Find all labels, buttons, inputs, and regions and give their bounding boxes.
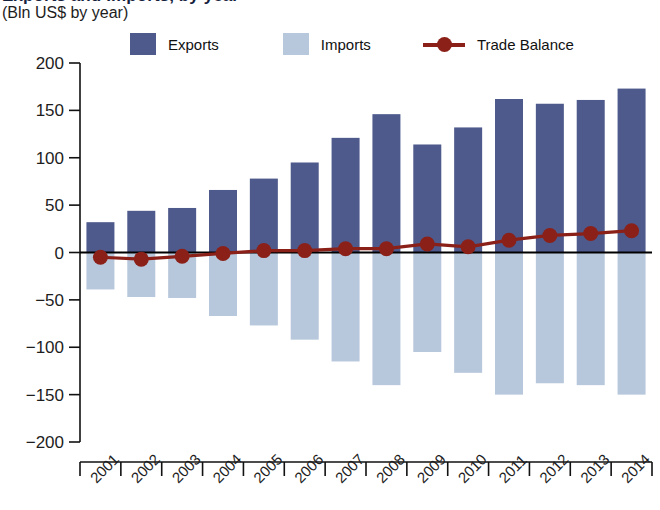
exports-bar	[127, 211, 155, 253]
x-tick-label: 2007	[332, 451, 368, 487]
svg-text:−50: −50	[35, 291, 64, 310]
svg-text:−100: −100	[26, 338, 64, 357]
svg-text:0: 0	[55, 244, 64, 263]
x-tick-label: 2013	[577, 451, 613, 487]
trade-balance-marker	[502, 233, 517, 248]
imports-bar	[618, 253, 646, 395]
exports-bar	[413, 144, 441, 252]
imports-bar	[454, 253, 482, 373]
x-tick-label: 2005	[250, 451, 286, 487]
svg-text:150: 150	[36, 101, 64, 120]
trade-balance-marker	[134, 252, 149, 267]
trade-balance-marker	[420, 236, 435, 251]
imports-bar	[209, 253, 237, 316]
exports-bar	[250, 179, 278, 253]
imports-bar	[332, 253, 360, 362]
x-tick-label: 2009	[413, 451, 449, 487]
exports-bar	[168, 208, 196, 253]
svg-text:−200: −200	[26, 433, 64, 452]
exports-bar	[454, 127, 482, 252]
svg-text:50: 50	[45, 196, 64, 215]
trade-balance-marker	[256, 243, 271, 258]
imports-bars	[86, 253, 645, 395]
x-tick-label: 2006	[291, 451, 327, 487]
x-tick-label: 2001	[87, 451, 123, 487]
imports-bar	[413, 253, 441, 352]
trade-balance-marker	[583, 226, 598, 241]
x-tick-label: 2011	[495, 451, 530, 486]
x-tick-label: 2004	[209, 451, 245, 487]
exports-bar	[209, 190, 237, 253]
trade-balance-marker	[338, 241, 353, 256]
trade-balance-marker	[297, 243, 312, 258]
x-axis: 2001200220032004200520062007200820092010…	[80, 451, 653, 487]
exports-bar	[495, 99, 523, 252]
trade-balance-marker	[542, 228, 557, 243]
trade-balance-marker	[93, 250, 108, 265]
x-tick-label: 2014	[618, 451, 654, 487]
exports-bars	[86, 89, 645, 253]
chart-canvas: 200150100500−50−100−150−200 200120022003…	[0, 0, 660, 510]
svg-text:200: 200	[36, 54, 64, 73]
trade-balance-marker	[461, 239, 476, 254]
imports-bar	[291, 253, 319, 340]
x-tick-label: 2010	[454, 451, 490, 487]
imports-bar	[536, 253, 564, 384]
x-tick-label: 2012	[536, 451, 572, 487]
y-axis: 200150100500−50−100−150−200	[26, 54, 80, 452]
exports-bar	[86, 222, 114, 252]
svg-text:−150: −150	[26, 386, 64, 405]
trade-balance-marker	[216, 246, 231, 261]
exports-bar	[291, 162, 319, 252]
x-tick-label: 2002	[127, 451, 163, 487]
chart-plot-area: 200150100500−50−100−150−200 200120022003…	[0, 0, 660, 510]
trade-balance-marker	[379, 241, 394, 256]
x-tick-label: 2003	[168, 451, 204, 487]
svg-text:100: 100	[36, 149, 64, 168]
exports-bar	[332, 138, 360, 253]
imports-bar	[495, 253, 523, 395]
exports-bar	[372, 114, 400, 252]
trade-balance-marker	[624, 223, 639, 238]
imports-bar	[372, 253, 400, 386]
imports-bar	[250, 253, 278, 326]
trade-balance-marker	[175, 249, 190, 264]
x-tick-label: 2008	[373, 451, 409, 487]
imports-bar	[577, 253, 605, 386]
